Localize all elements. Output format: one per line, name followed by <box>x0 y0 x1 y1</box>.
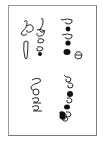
loop-glyph <box>38 39 44 43</box>
glyph-artwork <box>0 0 103 141</box>
open-note-glyph <box>61 19 72 24</box>
open-note-glyph <box>32 106 42 111</box>
open-note-glyph <box>64 75 71 82</box>
lower-right-glyph-group <box>60 75 73 121</box>
open-note-glyph <box>68 83 73 88</box>
lower-left-glyph-group <box>31 78 42 111</box>
filled-dot-icon <box>38 52 42 56</box>
filled-note-icon <box>67 91 73 97</box>
open-note-glyph <box>62 34 72 39</box>
upper-right-glyph-group <box>61 19 82 59</box>
filled-note-icon <box>64 49 71 55</box>
filled-note-icon <box>66 27 71 32</box>
filled-note-icon <box>65 40 70 45</box>
loop-glyph <box>21 20 27 35</box>
open-loop-glyph <box>31 78 41 90</box>
filled-note-glyph <box>60 112 65 120</box>
filled-note-icon <box>64 105 70 110</box>
open-note-glyph <box>32 98 41 103</box>
upper-left-glyph-group <box>21 18 45 59</box>
loop-glyph <box>27 25 33 33</box>
circle-glyph <box>33 89 39 95</box>
teardrop-glyph <box>24 41 28 59</box>
open-note-glyph <box>67 98 72 103</box>
loop-glyph <box>37 29 44 36</box>
open-circle-glyph <box>75 52 82 59</box>
open-note-glyph <box>66 112 71 117</box>
loop-glyph <box>37 47 43 51</box>
